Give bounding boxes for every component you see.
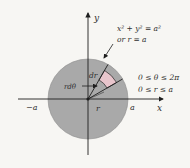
equation-line-1: x² + y² = a² <box>117 24 161 33</box>
x-axis-label: x <box>157 103 162 113</box>
y-axis-label: y <box>93 13 100 23</box>
pos-a-label: a <box>130 103 135 112</box>
dr-label: dr <box>89 71 98 80</box>
origin-dot <box>86 97 89 100</box>
equation-pointer-arrow <box>104 44 113 58</box>
r-dtheta-label: rdθ <box>64 83 77 91</box>
theta-bounds: 0 ≤ θ ≤ 2π <box>138 73 180 82</box>
neg-a-label: −a <box>26 103 38 112</box>
equation-line-2: or r = a <box>117 35 147 44</box>
r-bounds: 0 ≤ r ≤ a <box>138 85 173 94</box>
polar-disk-diagram: y x a −a r dr rdθ x² + y² = a² or r = a … <box>0 0 190 168</box>
